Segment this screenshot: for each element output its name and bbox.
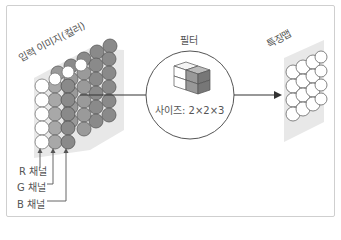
g-channel-front (48, 79, 62, 149)
g-channel-label: G 채널 (17, 179, 46, 194)
b-channel-front (61, 79, 75, 149)
arrow-head-icon (274, 91, 282, 99)
b-channel-label: B 채널 (17, 196, 45, 211)
r-channel-label: R 채널 (19, 163, 47, 178)
filter-size-label: 사이즈: 2×2×3 (155, 102, 224, 117)
filter-title: 필터 (180, 32, 198, 47)
